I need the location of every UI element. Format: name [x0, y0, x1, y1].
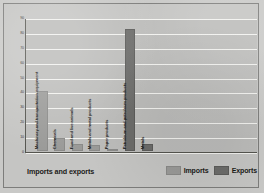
bar-series: Machinery and transportation equipmentCh…	[27, 19, 257, 151]
chart-footer: Imports and exports ImportsExports	[25, 162, 257, 184]
bar-slot: Petroleum and petroleum products	[125, 19, 136, 151]
y-axis-title: Percentage of total	[8, 0, 17, 28]
y-tick-label: 70	[20, 47, 24, 51]
bar-slot: Machinery and transportation equipment	[37, 19, 48, 151]
y-tick-label: 30	[20, 107, 24, 111]
bar-slot: Metals and metal products	[89, 19, 100, 151]
bar-slot: Paper products	[107, 19, 118, 151]
bar-slot: Chemicals	[54, 19, 65, 151]
legend: ImportsExports	[166, 166, 257, 175]
category-label: Paper products	[105, 120, 109, 149]
bar-slot: Food and live animals	[72, 19, 83, 151]
chart-frame: Percentage of total 0102030405060708090 …	[3, 3, 259, 188]
legend-label: Exports	[232, 167, 257, 174]
y-tick-label: 50	[20, 77, 24, 81]
category-label: Machinery and transportation equipment	[35, 72, 39, 149]
legend-swatch-imports	[166, 166, 181, 175]
x-axis-title: Imports and exports	[27, 167, 94, 176]
bar-slot: Metals	[142, 19, 153, 151]
legend-swatch-exports	[214, 166, 229, 175]
y-tick-label: 0	[22, 151, 24, 155]
y-tick-label: 20	[20, 121, 24, 125]
category-label: Food and live animals	[70, 107, 74, 149]
gridline: 0	[26, 153, 257, 154]
y-tick-label: 40	[20, 92, 24, 96]
bar[interactable]	[107, 149, 118, 151]
y-tick-label: 90	[20, 17, 24, 21]
category-label: Metals and metal products	[88, 99, 92, 149]
category-label: Chemicals	[52, 129, 56, 149]
legend-item-exports[interactable]: Exports	[214, 166, 257, 175]
legend-label: Imports	[184, 167, 209, 174]
legend-item-imports[interactable]: Imports	[166, 166, 209, 175]
y-tick-label: 80	[20, 32, 24, 36]
chart-screenshot: Percentage of total 0102030405060708090 …	[0, 0, 264, 193]
plot-area: 0102030405060708090 Machinery and transp…	[25, 19, 257, 153]
category-label: Metals	[140, 137, 144, 149]
y-tick-label: 10	[20, 136, 24, 140]
category-label: Petroleum and petroleum products	[123, 83, 127, 149]
y-tick-label: 60	[20, 62, 24, 66]
